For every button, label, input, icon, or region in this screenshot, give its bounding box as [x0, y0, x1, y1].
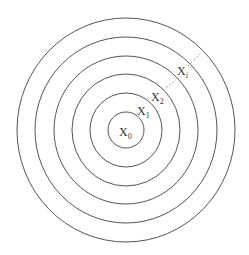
labels-group: X0X1X2Xi — [119, 64, 188, 141]
label-x0: X0 — [119, 125, 132, 141]
dotted-segment-0 — [163, 80, 176, 90]
label-x2: X2 — [151, 90, 164, 106]
label-xi: Xi — [177, 64, 188, 80]
concentric-circles-diagram: X0X1X2Xi — [0, 0, 249, 255]
label-x1: X1 — [137, 104, 150, 120]
